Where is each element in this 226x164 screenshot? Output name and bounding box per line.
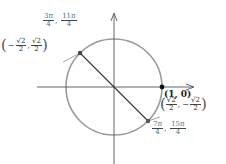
fraction: 15π 4 [170, 121, 186, 137]
fraction: √2 2 [31, 38, 42, 54]
unit-circle-diagram [0, 0, 226, 164]
coord-label-3pi-4: (− √2 2 , √2 2 ) [1, 38, 48, 54]
point-3pi-4-dot [78, 51, 82, 55]
point-7pi-4-dot [146, 119, 150, 123]
coord-label-7pi-4: ( √2 2 ,− √2 2 ) [160, 97, 207, 113]
leader-line-3pi-4 [63, 53, 80, 62]
fraction: 7π 4 [152, 121, 163, 137]
angle-label-7pi-4: 7π 4 , 15π 4 [152, 121, 186, 137]
fraction: √2 2 [16, 38, 27, 54]
fraction: √2 2 [190, 97, 201, 113]
fraction: 3π 4 [43, 13, 54, 29]
angle-label-3pi-4: 3π 4 , 11π 4 [43, 13, 77, 29]
fraction: 11π 4 [61, 13, 77, 29]
fraction: √2 2 [166, 97, 177, 113]
